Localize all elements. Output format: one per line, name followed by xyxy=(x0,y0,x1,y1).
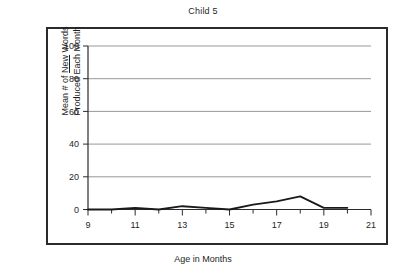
x-tick-label: 15 xyxy=(224,220,234,230)
x-tick-label: 21 xyxy=(366,220,376,230)
x-tick-label: 9 xyxy=(85,220,90,230)
x-tick-label: 19 xyxy=(319,220,329,230)
y-tick-label: 0 xyxy=(74,205,79,215)
y-tick-label: 40 xyxy=(69,139,79,149)
data-series-line xyxy=(88,196,347,209)
y-tick-label: 80 xyxy=(69,74,79,84)
y-axis-ticks: 020406080100 xyxy=(64,41,88,215)
y-tick-label: 100 xyxy=(64,41,79,51)
plot-area: 020406080100 9111315171921 xyxy=(0,0,406,277)
chart-figure: Child 5 Mean # of New Words Produced Eac… xyxy=(0,0,406,277)
y-tick-label: 60 xyxy=(69,107,79,117)
gridlines xyxy=(88,46,371,177)
y-tick-label: 20 xyxy=(69,172,79,182)
x-tick-label: 13 xyxy=(177,220,187,230)
x-axis-ticks: 9111315171921 xyxy=(85,210,376,230)
x-tick-label: 11 xyxy=(130,220,139,230)
x-tick-label: 17 xyxy=(272,220,282,230)
